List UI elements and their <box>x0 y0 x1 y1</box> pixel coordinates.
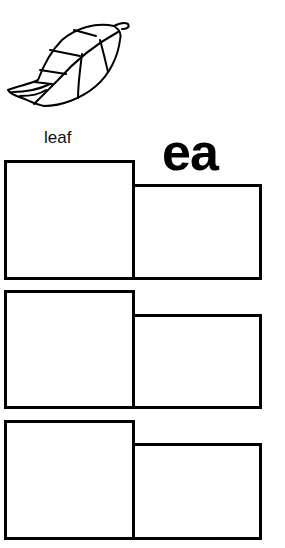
footer-watermark: · · · · · · · · · <box>185 540 216 546</box>
write-box-1-left[interactable] <box>4 160 135 280</box>
write-box-3-left[interactable] <box>4 420 135 540</box>
word-label: leaf <box>44 128 71 148</box>
leaf-icon <box>0 0 150 120</box>
write-box-3-right[interactable] <box>132 443 262 540</box>
vowel-team-label: ea <box>162 122 218 182</box>
write-box-1-right[interactable] <box>132 184 262 280</box>
write-box-2-left[interactable] <box>4 290 135 409</box>
write-box-2-right[interactable] <box>132 314 262 409</box>
